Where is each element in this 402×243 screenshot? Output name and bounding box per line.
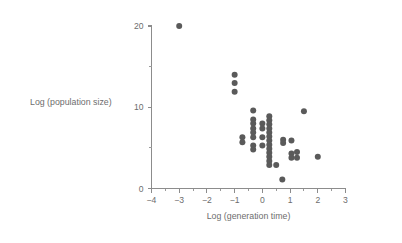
data-point bbox=[315, 154, 321, 160]
data-point bbox=[301, 108, 307, 114]
data-point bbox=[288, 138, 294, 144]
data-point bbox=[266, 162, 272, 168]
data-point bbox=[250, 108, 256, 114]
data-point bbox=[294, 149, 300, 155]
data-point bbox=[259, 125, 265, 131]
y-tick-label-2: 20 bbox=[134, 21, 144, 31]
data-point bbox=[294, 155, 300, 161]
y-tick-label-0: 0 bbox=[139, 184, 144, 194]
x-tick-label-6: 2 bbox=[315, 195, 320, 205]
data-point bbox=[232, 80, 238, 86]
data-point bbox=[288, 155, 294, 161]
x-axis-title: Log (generation time) bbox=[207, 211, 291, 221]
x-tick-label-7: 3 bbox=[343, 195, 348, 205]
data-point bbox=[250, 134, 256, 140]
x-tick-label-3: −1 bbox=[230, 195, 240, 205]
x-tick-label-2: −2 bbox=[202, 195, 212, 205]
data-point bbox=[280, 140, 286, 146]
scatter-plot-figure: −4−3−2−1012301020Log (generation time)Lo… bbox=[0, 0, 402, 243]
x-tick-label-0: −4 bbox=[147, 195, 157, 205]
y-tick-label-1: 10 bbox=[134, 102, 144, 112]
data-point bbox=[259, 134, 265, 140]
data-point bbox=[232, 89, 238, 95]
data-point bbox=[250, 147, 256, 153]
data-point bbox=[273, 162, 279, 168]
data-point bbox=[259, 142, 265, 148]
data-point bbox=[279, 177, 285, 183]
data-point bbox=[239, 139, 245, 145]
x-tick-label-4: 0 bbox=[260, 195, 265, 205]
y-axis-title: Log (population size) bbox=[30, 97, 112, 107]
data-point bbox=[232, 72, 238, 78]
x-tick-label-5: 1 bbox=[288, 195, 293, 205]
data-point bbox=[176, 23, 182, 29]
plot-canvas: −4−3−2−1012301020Log (generation time)Lo… bbox=[0, 0, 402, 243]
x-tick-label-1: −3 bbox=[174, 195, 184, 205]
